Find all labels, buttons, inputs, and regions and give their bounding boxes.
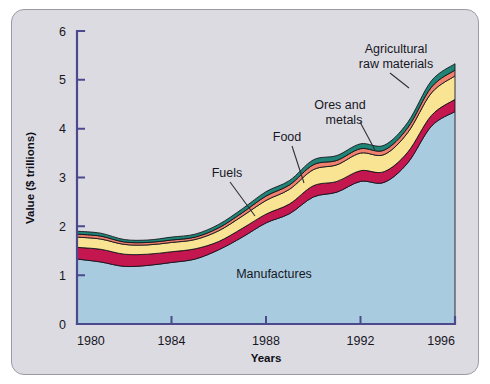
label-agricultural-line1: Agricultural bbox=[365, 42, 428, 56]
x-tick-label-1984: 1984 bbox=[158, 334, 186, 348]
figure-card: 012345619801984198819921996 Years Value … bbox=[11, 9, 479, 375]
x-tick-label-1992: 1992 bbox=[347, 334, 375, 348]
area-bands-group bbox=[77, 64, 455, 324]
x-tick-label-1988: 1988 bbox=[252, 334, 280, 348]
label-ores-and-metals-line2: metals bbox=[326, 113, 363, 127]
y-tick-label-3: 3 bbox=[59, 171, 66, 185]
x-axis-title: Years bbox=[251, 352, 282, 364]
x-tick-label-1996: 1996 bbox=[427, 334, 455, 348]
y-axis-title: Value ($ trillions) bbox=[24, 132, 36, 224]
stacked-area-chart: 012345619801984198819921996 Years Value … bbox=[12, 10, 478, 374]
leader-line-agricultural bbox=[390, 73, 409, 88]
label-agricultural-line2: raw materials bbox=[359, 57, 433, 71]
y-tick-label-0: 0 bbox=[59, 318, 66, 332]
label-ores-and-metals-line1: Ores and bbox=[314, 98, 365, 112]
x-tick-label-1980: 1980 bbox=[77, 334, 105, 348]
y-tick-label-1: 1 bbox=[59, 269, 66, 283]
label-manufactures: Manufactures bbox=[236, 267, 312, 281]
y-tick-label-4: 4 bbox=[59, 122, 66, 136]
y-tick-label-5: 5 bbox=[59, 73, 66, 87]
y-tick-label-6: 6 bbox=[59, 25, 66, 39]
label-food: Food bbox=[273, 130, 302, 144]
chart-surface: 012345619801984198819921996 Years Value … bbox=[12, 10, 478, 374]
y-tick-label-2: 2 bbox=[59, 220, 66, 234]
label-fuels: Fuels bbox=[212, 166, 243, 180]
